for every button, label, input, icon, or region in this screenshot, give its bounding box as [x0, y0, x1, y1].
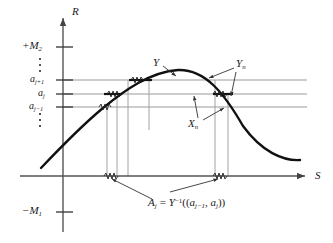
arrow-Yn-lower [231, 72, 236, 96]
tick-label-a-j-plus-1-sub: j+1 [35, 78, 44, 85]
annotation-Xn-main: X [188, 117, 195, 129]
tick-label-a-j-minus-1-sub: j−1 [34, 105, 43, 112]
tick-label-plus-M2-sub: 2 [39, 45, 42, 52]
level-lines [63, 80, 307, 107]
squiggle-markers [99, 77, 227, 179]
formula-open: (( [182, 196, 189, 208]
formula-Aj: Aj=Y−1((aj−1, aj)) [148, 197, 225, 210]
tick-label-a-j-sub: j [43, 92, 45, 99]
annotation-Yn-sub: n [242, 63, 245, 70]
formula-A: A [148, 196, 155, 208]
tick-label-a-j-minus-1: aj−1 [29, 101, 43, 112]
annotation-Yn: Yn [236, 58, 246, 71]
arrow-Xn-lower [203, 108, 224, 120]
tick-label-a-j-plus-1: aj+1 [30, 74, 44, 85]
arrow-Yn-upper [209, 68, 234, 78]
curve-Y [41, 70, 300, 168]
formula-close: )) [218, 196, 225, 208]
formula-a-prev-sub: j−1 [195, 202, 205, 209]
curve-label-Y: Y [153, 57, 159, 68]
ellipsis-lower [38, 113, 42, 127]
tick-label-a-j: aj [38, 88, 45, 99]
figure-canvas: R S +M2 aj+1 aj aj−1 −M1 Y Yn Xn Aj=Y−1(… [0, 0, 333, 243]
arrow-Aj-right [170, 179, 218, 192]
annotation-Xn-sub: n [195, 123, 198, 130]
x-axis-label: S [315, 170, 321, 181]
annotation-Xn: Xn [188, 118, 198, 131]
leader-arrows [112, 66, 236, 199]
formula-equals: = [157, 196, 169, 208]
y-axis-label: R [72, 6, 79, 17]
tick-label-minus-M1-main: −M [22, 204, 39, 216]
tick-label-plus-M2-main: +M [22, 39, 39, 51]
tick-label-plus-M2: +M2 [22, 40, 42, 53]
arrow-Aj-left [112, 179, 152, 199]
ellipsis-upper [38, 58, 42, 72]
tick-label-minus-M1-sub: 1 [39, 210, 42, 217]
tick-label-minus-M1: −M1 [22, 205, 42, 218]
